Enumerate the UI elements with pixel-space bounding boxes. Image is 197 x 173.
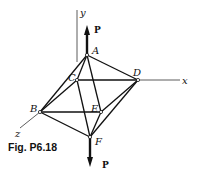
figure-caption: Fig. P6.18 <box>8 141 57 153</box>
axis-label-y: y <box>79 7 86 18</box>
axis-label-x: x <box>182 75 188 86</box>
load-arrow-bottom <box>87 137 93 167</box>
node-label-a: A <box>91 45 99 56</box>
load-label-bottom: P <box>102 160 109 170</box>
axis-label-z: z <box>14 128 21 139</box>
node-label-e: E <box>90 103 99 114</box>
node-label-c: C <box>68 72 76 83</box>
node-label-d: D <box>132 67 141 78</box>
truss-diagram: y x z A B C D E F P P Fig. P6.18 <box>0 0 197 173</box>
load-arrow-top <box>84 25 90 55</box>
truss-members <box>40 55 138 137</box>
node-label-b: B <box>29 103 37 114</box>
load-label-top: P <box>94 25 101 35</box>
z-axis <box>20 112 40 128</box>
node-label-f: F <box>94 136 103 147</box>
